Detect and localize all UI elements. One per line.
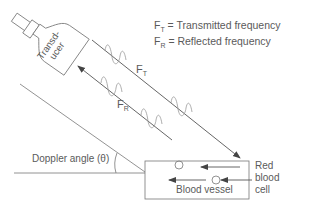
angle-arc	[115, 153, 117, 173]
doppler-angle-label: Doppler angle (θ)	[32, 154, 109, 164]
reflected-waves	[101, 77, 162, 128]
red-blood-cell	[212, 176, 220, 184]
legend-reflected: FR = Reflected frequency	[154, 36, 271, 47]
blood-vessel-label: Blood vessel	[176, 185, 233, 195]
transmitted-beam	[92, 40, 240, 158]
rbc-label: Red blood cell	[255, 160, 279, 196]
red-blood-cell	[175, 161, 183, 169]
reflected-beam-label: FR	[117, 99, 129, 110]
legend-transmitted: FT = Transmitted frequency	[154, 20, 281, 31]
transmitted-beam-label: FT	[136, 64, 147, 75]
